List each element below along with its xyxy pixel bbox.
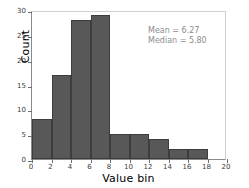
x-tick-label: 4 <box>68 163 72 171</box>
x-tick-label: 0 <box>29 163 33 171</box>
histogram-bar <box>149 139 169 159</box>
histogram-bar <box>32 119 52 159</box>
x-axis-title: Value bin <box>31 172 226 185</box>
y-axis-title: Count <box>19 2 32 92</box>
median-annotation: Median = 5.80 <box>148 36 207 46</box>
histogram-bar <box>110 134 130 159</box>
histogram-bar <box>188 149 208 159</box>
x-tick-label: 10 <box>124 163 133 171</box>
x-tick-label: 6 <box>87 163 91 171</box>
y-tick-mark <box>28 111 32 112</box>
histogram-bar <box>169 149 189 159</box>
x-tick-label: 8 <box>107 163 111 171</box>
x-tick-label: 16 <box>183 163 192 171</box>
x-tick-label: 20 <box>222 163 231 171</box>
y-tick-mark <box>28 136 32 137</box>
x-tick-label: 12 <box>144 163 153 171</box>
histogram-bar <box>91 15 111 159</box>
histogram-bar <box>130 134 150 159</box>
histogram-figure: 02468101214161820 051015202530 Value bin… <box>0 0 249 188</box>
x-tick-label: 18 <box>202 163 211 171</box>
x-tick-label: 2 <box>48 163 52 171</box>
y-tick-mark <box>28 161 32 162</box>
histogram-bar <box>71 20 91 159</box>
x-tick-label: 14 <box>163 163 172 171</box>
stats-annotation: Mean = 6.27 Median = 5.80 <box>148 26 207 46</box>
histogram-bar <box>52 75 72 159</box>
mean-annotation: Mean = 6.27 <box>148 26 207 36</box>
